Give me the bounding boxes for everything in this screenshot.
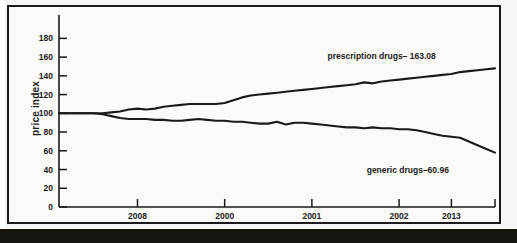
prescription-drugs-annotation: prescription drugs– 163.08	[328, 51, 436, 61]
line-chart-plot: 020406080100120140160180 200820002001200…	[9, 7, 499, 222]
generic-drugs-annotation: generic drugs–60.96	[367, 165, 449, 175]
y-tick-label: 60	[44, 146, 54, 156]
y-tick-label: 160	[39, 52, 53, 62]
x-axis: 20082000200120022013	[59, 199, 495, 221]
y-tick-label: 0	[48, 202, 53, 212]
y-tick-label: 40	[44, 165, 54, 175]
x-tick-label: 2001	[302, 211, 321, 221]
series-line-prescription-drugs	[59, 68, 495, 113]
y-tick-label: 80	[44, 127, 54, 137]
y-tick-label: 140	[39, 71, 53, 81]
series-lines	[59, 68, 495, 152]
x-tick-label: 2008	[128, 211, 147, 221]
x-tick-label: 2000	[215, 211, 234, 221]
y-tick-label: 20	[44, 183, 54, 193]
chart-figure: price index 020406080100120140160180 200…	[0, 0, 517, 243]
scan-bottom-band	[0, 229, 517, 243]
y-tick-label: 100	[39, 108, 53, 118]
x-tick-label: 2013	[442, 211, 461, 221]
chart-frame: price index 020406080100120140160180 200…	[7, 5, 501, 224]
scan-left-margin	[0, 0, 5, 229]
series-line-generic-drugs	[59, 113, 495, 152]
series-annotations: prescription drugs– 163.08generic drugs–…	[328, 51, 450, 175]
x-tick-label: 2002	[390, 211, 409, 221]
y-tick-label: 180	[39, 33, 53, 43]
y-tick-label: 120	[39, 90, 53, 100]
